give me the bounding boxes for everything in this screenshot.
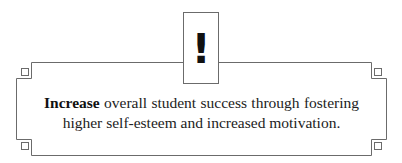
corner-square-top-left bbox=[22, 69, 29, 76]
callout-text: overall student success through fosterin… bbox=[63, 94, 359, 131]
callout-keyword: Increase bbox=[44, 94, 100, 111]
corner-square-top-right bbox=[375, 69, 382, 76]
alert-badge: ! bbox=[183, 12, 219, 84]
corner-square-bottom-left bbox=[22, 143, 29, 150]
corner-square-bottom-right bbox=[375, 143, 382, 150]
callout-message: Increase overall student success through… bbox=[44, 93, 359, 133]
exclamation-icon: ! bbox=[191, 29, 210, 69]
